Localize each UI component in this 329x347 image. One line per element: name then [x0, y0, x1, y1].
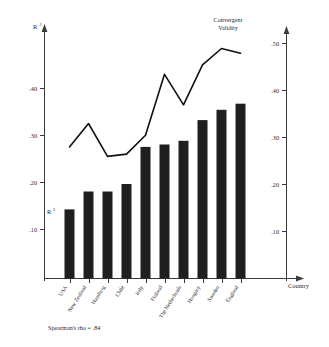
x-axis-arrow-icon [296, 276, 304, 282]
bar-legend-text: R [47, 208, 52, 215]
bar-sweden [217, 110, 227, 279]
bar-legend-superscript: 2 [53, 207, 55, 212]
chart-figure: .40 .30 .20 .10 R 2 .50 .40 .30 .20 .10 [0, 0, 329, 347]
bar-the-netherlands [179, 141, 189, 279]
right-ticklabel-10: .10 [271, 228, 279, 235]
bar-usa [65, 209, 75, 278]
bar-new-zealand [84, 192, 94, 279]
bar-finland [160, 145, 170, 279]
x-axis-title: Country [288, 282, 310, 289]
x-category-label-chile: Chile [114, 284, 126, 298]
right-ticklabel-20: .20 [271, 181, 279, 188]
curve-label-line2: Validity [218, 24, 238, 31]
x-category-label-sweden: Sweden [206, 284, 221, 302]
x-category-label-usa: USA [57, 284, 68, 297]
x-category-label-hungary: Hungary [186, 284, 202, 304]
left-ticklabel-40: .40 [29, 85, 37, 92]
chart-svg: .40 .30 .20 .10 R 2 .50 .40 .30 .20 .10 [0, 0, 329, 347]
x-category-label-finland: Finland [149, 284, 163, 302]
right-y-axis: .50 .40 .30 .20 .10 [271, 26, 289, 281]
convergent-validity-line-series [70, 49, 241, 157]
spearman-rho-note: Spearman's rho = .84 [48, 324, 100, 331]
right-ticklabel-40: .40 [271, 87, 279, 94]
left-axis-title: R [33, 23, 38, 30]
right-ticklabel-50: .50 [271, 40, 279, 47]
left-ticklabel-30: .30 [29, 132, 37, 139]
convergent-validity-line [70, 49, 241, 157]
bar-hamburg [103, 192, 113, 279]
left-y-axis: .40 .30 .20 .10 R 2 [29, 22, 47, 282]
left-ticklabel-10: .10 [29, 226, 37, 233]
bar-chile [122, 184, 132, 279]
x-category-label-new-zealand: New Zealand [66, 284, 87, 313]
x-category-label-hamburg: Hamburg [90, 284, 106, 305]
right-axis-arrow-icon [284, 26, 290, 34]
left-axis-title-superscript: 2 [40, 22, 42, 27]
bar-hungary [198, 120, 208, 278]
bar-series-legend-label: R 2 [47, 207, 55, 216]
bar-england [236, 104, 246, 279]
x-category-labels: USA New Zealand Hamburg Chile Italy Finl… [57, 284, 239, 319]
x-category-label-england: England [224, 284, 239, 303]
curve-label-line1: Convergent [214, 16, 243, 23]
left-axis-arrow-icon [42, 24, 48, 32]
bar-italy [141, 147, 151, 279]
curve-label: Convergent Validity [214, 16, 243, 31]
right-ticklabel-30: .30 [271, 134, 279, 141]
x-category-label-italy: Italy [134, 284, 145, 296]
left-ticklabel-20: .20 [29, 179, 37, 186]
